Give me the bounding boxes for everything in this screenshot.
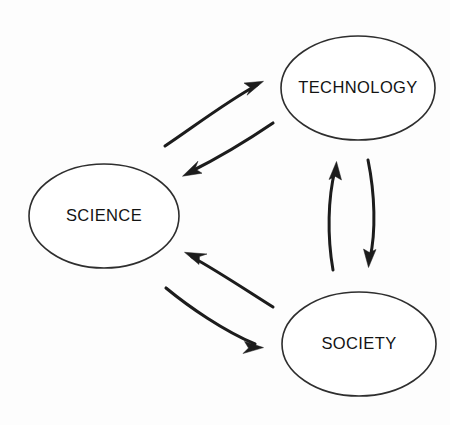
edge-society-to-technology bbox=[329, 162, 342, 271]
edge-society-to-science bbox=[185, 252, 274, 307]
edge-technology-to-science-line bbox=[190, 123, 273, 172]
edge-society-to-science-line bbox=[192, 257, 273, 307]
node-technology-label: TECHNOLOGY bbox=[298, 78, 418, 96]
edge-science-to-technology-arrowhead bbox=[244, 81, 264, 95]
edge-science-to-technology-line bbox=[165, 85, 257, 146]
node-society-label: SOCIETY bbox=[321, 334, 396, 352]
edge-science-to-society-line bbox=[166, 288, 255, 344]
edge-technology-to-science bbox=[183, 123, 274, 176]
diagram-canvas: TECHNOLOGY SCIENCE SOCIETY bbox=[0, 0, 450, 425]
edge-technology-to-society-line bbox=[368, 160, 374, 258]
edge-technology-to-society bbox=[364, 160, 377, 268]
node-technology[interactable]: TECHNOLOGY bbox=[281, 36, 435, 140]
edge-society-to-technology-line bbox=[329, 170, 335, 270]
node-science-label: SCIENCE bbox=[66, 206, 142, 224]
diagram-svg: TECHNOLOGY SCIENCE SOCIETY bbox=[0, 0, 450, 425]
node-science[interactable]: SCIENCE bbox=[29, 164, 179, 268]
node-society[interactable]: SOCIETY bbox=[282, 292, 436, 396]
edge-society-to-technology-arrowhead bbox=[329, 162, 342, 181]
edge-science-to-society bbox=[166, 288, 264, 354]
edge-science-to-technology bbox=[165, 81, 264, 146]
